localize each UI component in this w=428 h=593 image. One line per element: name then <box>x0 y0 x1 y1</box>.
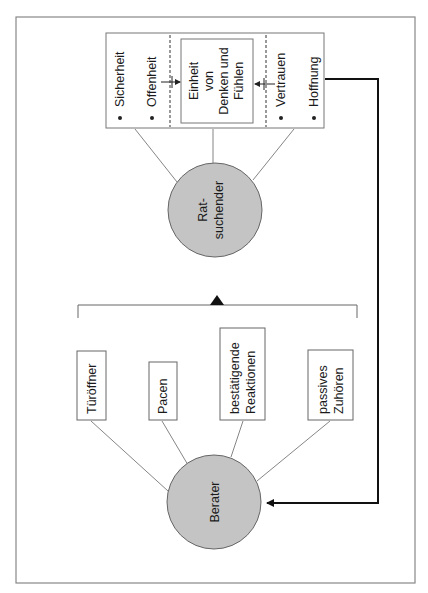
technique-box-pacen: Pacen <box>149 362 177 420</box>
bullet-icon <box>118 116 122 120</box>
technique-box-passives-zuhoeren: passives Zuhören <box>308 350 353 420</box>
feedback-arrow <box>267 79 378 503</box>
quality-vertrauen: Vertrauen <box>274 53 288 107</box>
quality-hoffnung: Hoffnung <box>307 56 321 107</box>
unity-line-4: Fühlen <box>232 62 246 100</box>
quality-offenheit: Offenheit <box>145 56 159 107</box>
technique-label: Zuhören <box>332 367 346 414</box>
unity-line-2: von <box>202 71 216 91</box>
quality-sicherheit: Sicherheit <box>113 51 127 107</box>
technique-label: Türöffner <box>85 364 99 415</box>
bullet-icon <box>312 116 316 120</box>
technique-label: Pacen <box>156 379 170 414</box>
diagram-canvas: Sicherheit Offenheit Vertrauen Hoffnung … <box>0 0 428 593</box>
unity-line-1: Einheit <box>187 61 201 100</box>
technique-box-bestaetigende-reaktionen: bestätigende Reaktionen <box>220 328 265 420</box>
counselor-label: Berater <box>208 482 222 523</box>
unity-line-3: Denken und <box>217 47 231 114</box>
client-label-line-1: Rat- <box>196 198 210 222</box>
bullet-icon <box>279 116 283 120</box>
triangle-up-icon <box>210 295 224 305</box>
technique-label: bestätigende <box>228 342 242 414</box>
technique-label: Reaktionen <box>244 351 258 414</box>
technique-label: passives <box>316 365 330 414</box>
bullet-icon <box>150 116 154 120</box>
client-label-line-2: suchender <box>212 181 226 239</box>
techniques-bracket <box>78 295 357 318</box>
client-qualities-box: Sicherheit Offenheit Vertrauen Hoffnung … <box>106 33 324 128</box>
technique-box-tueroeffner: Türöffner <box>77 351 106 420</box>
